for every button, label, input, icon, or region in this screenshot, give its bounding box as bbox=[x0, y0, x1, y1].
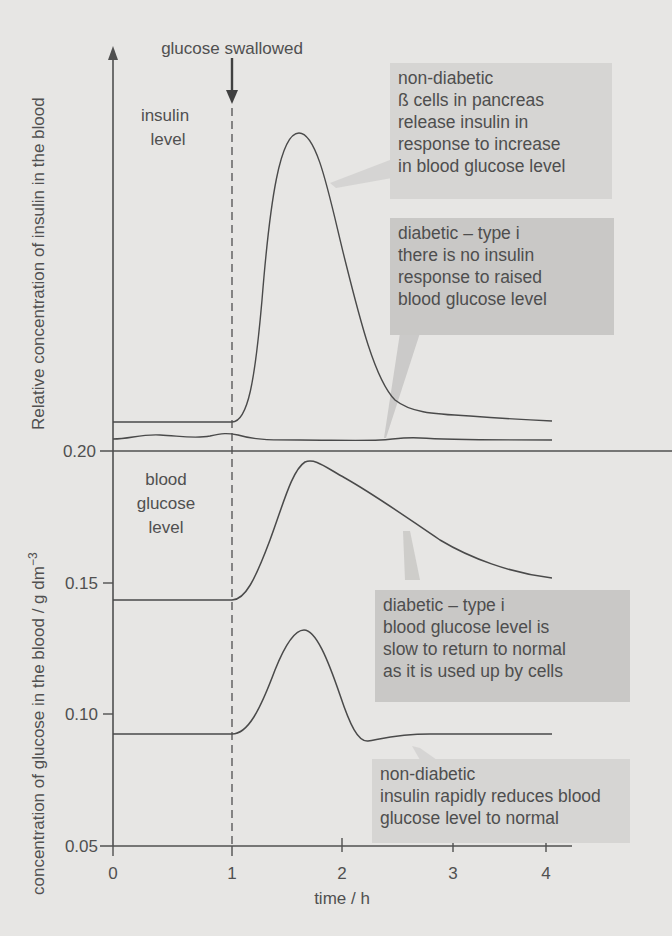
glucose-level-label-3: level bbox=[149, 518, 184, 537]
y-tick-0.20: 0.20 bbox=[63, 442, 96, 461]
y-axis-title-glucose: concentration of glucose in the blood / … bbox=[26, 552, 48, 895]
callout-insulin-diabetic: diabetic – type i there is no insulin re… bbox=[390, 218, 614, 335]
callout-line: release insulin in bbox=[398, 111, 604, 133]
figure: 0.20 0.15 0.10 0.05 0 1 2 3 4 glucose sw… bbox=[0, 0, 672, 936]
callout-line: glucose level to normal bbox=[380, 807, 622, 829]
callout-line: there is no insulin bbox=[398, 244, 606, 266]
insulin-diabetic-curve bbox=[113, 434, 552, 441]
glucose-level-label-1: blood bbox=[145, 470, 187, 489]
callout-line: blood glucose level is bbox=[383, 616, 622, 638]
x-tick-1: 1 bbox=[227, 864, 236, 883]
glucose-level-label-2: glucose bbox=[137, 494, 196, 513]
callout-line: response to increase bbox=[398, 133, 604, 155]
x-tick-3: 3 bbox=[448, 864, 457, 883]
callout-line: non-diabetic bbox=[398, 67, 604, 89]
y-tick-0.05: 0.05 bbox=[65, 837, 98, 856]
callout-line: diabetic – type i bbox=[383, 594, 622, 616]
insulin-level-label-2: level bbox=[151, 130, 186, 149]
callout-insulin-nondiabetic: non-diabetic ß cells in pancreas release… bbox=[390, 63, 612, 199]
x-tick-0: 0 bbox=[108, 864, 117, 883]
callout-line: non-diabetic bbox=[380, 763, 622, 785]
glucose-swallowed-label: glucose swallowed bbox=[161, 39, 303, 58]
callout-line: ß cells in pancreas bbox=[398, 89, 604, 111]
callout-glucose-diabetic: diabetic – type i blood glucose level is… bbox=[375, 590, 630, 702]
y-tick-0.15: 0.15 bbox=[65, 574, 98, 593]
callout-line: slow to return to normal bbox=[383, 638, 622, 660]
x-tick-2: 2 bbox=[337, 864, 346, 883]
y-axis-title-insulin: Relative concentration of insulin in the… bbox=[29, 97, 48, 430]
insulin-level-label-1: insulin bbox=[141, 106, 189, 125]
down-arrow-icon bbox=[226, 90, 238, 104]
callout-line: blood glucose level bbox=[398, 288, 606, 310]
x-axis-title: time / h bbox=[314, 889, 370, 908]
callout-line: diabetic – type i bbox=[398, 222, 606, 244]
y-axis-arrow-icon bbox=[108, 46, 118, 60]
callout-glucose-nondiabetic: non-diabetic insulin rapidly reduces blo… bbox=[372, 759, 630, 843]
callout-line: as it is used up by cells bbox=[383, 660, 622, 682]
x-tick-4: 4 bbox=[541, 864, 550, 883]
callout-line: insulin rapidly reduces blood bbox=[380, 785, 622, 807]
callout-line: in blood glucose level bbox=[398, 155, 604, 177]
y-tick-0.10: 0.10 bbox=[65, 705, 98, 724]
callout-line: response to raised bbox=[398, 266, 606, 288]
